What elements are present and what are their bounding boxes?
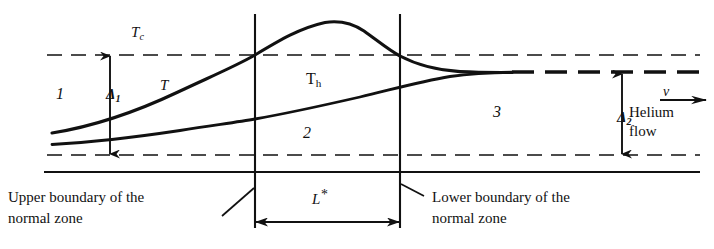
helium-temperature-curve	[52, 72, 512, 144]
normal-zone-length-star: *	[321, 187, 328, 202]
helium-temperature-subscript: h	[316, 77, 322, 89]
figure-container: Tc Th T 1 2 3 Δ1 Δ2 v Helium flow L* Upp…	[0, 0, 714, 249]
zone-1-label: 1	[56, 86, 64, 102]
helium-label: Helium	[629, 105, 674, 120]
velocity-label: v	[663, 85, 669, 99]
critical-temperature-label: Tc	[131, 25, 144, 40]
diagram-canvas	[0, 0, 714, 249]
lower-boundary-caption-line1: Lower boundary of the	[432, 190, 570, 205]
upper-boundary-caption-line1: Upper boundary of the	[8, 190, 144, 205]
delta-1-symbol: Δ	[106, 86, 115, 102]
delta-1-subscript: 1	[116, 93, 121, 104]
normal-zone-length-symbol: L	[312, 191, 320, 207]
upper-boundary-leader-line	[222, 188, 254, 216]
delta-2-symbol: Δ	[617, 109, 626, 125]
upper-boundary-caption-line2: normal zone	[8, 211, 83, 226]
helium-temperature-symbol: T	[306, 70, 316, 87]
zone-3-label: 3	[493, 104, 501, 120]
zone-2-label: 2	[303, 125, 311, 141]
normal-zone-length-label: L*	[312, 192, 327, 207]
helium-temperature-label: Th	[306, 71, 321, 87]
lower-boundary-caption-line2: normal zone	[432, 211, 507, 226]
critical-temperature-subscript: c	[140, 31, 145, 42]
delta-1-label: Δ1	[106, 87, 121, 102]
critical-temperature-symbol: T	[131, 24, 139, 40]
flow-label: flow	[629, 124, 657, 139]
conductor-temperature-label: T	[160, 78, 168, 93]
lower-boundary-leader-line	[401, 184, 424, 196]
